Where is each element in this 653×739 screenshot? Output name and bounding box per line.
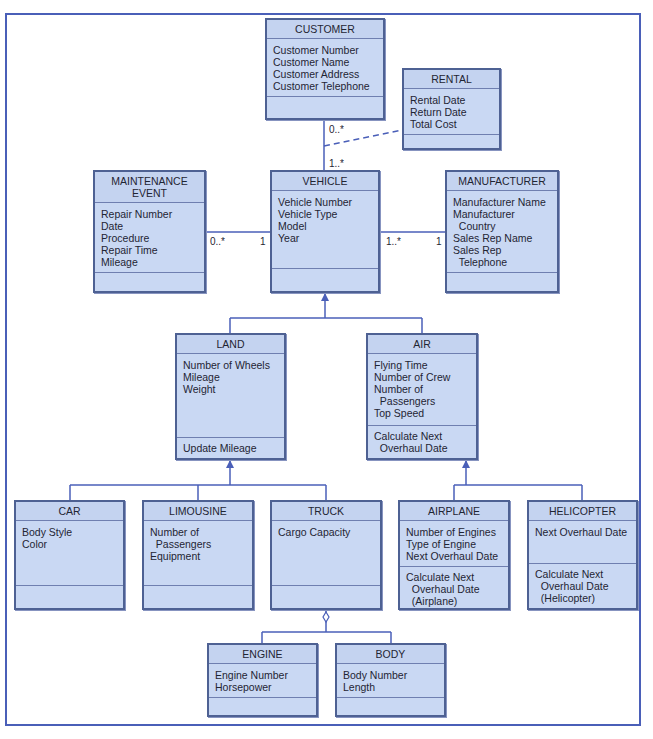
attribute: Number of Crew bbox=[374, 371, 470, 383]
attribute: Customer Number bbox=[273, 44, 377, 56]
attribute: Total Cost bbox=[410, 118, 493, 130]
operations-compartment bbox=[272, 269, 378, 291]
attributes-compartment: Number of WheelsMileageWeight bbox=[177, 354, 284, 438]
multiplicity-manufacturer-end: 1 bbox=[436, 236, 442, 247]
attribute: Vehicle Number bbox=[278, 196, 372, 208]
class-name: VEHICLE bbox=[272, 172, 378, 191]
class-name: MAINTENANCEEVENT bbox=[95, 172, 204, 203]
attribute: Return Date bbox=[410, 106, 493, 118]
operation: Update Mileage bbox=[183, 442, 278, 454]
attribute: Telephone bbox=[453, 256, 551, 268]
class-name: LAND bbox=[177, 335, 284, 354]
attribute: Number of bbox=[150, 526, 246, 538]
attribute: Customer Name bbox=[273, 56, 377, 68]
attribute: Cargo Capacity bbox=[278, 526, 374, 538]
attribute: Flying Time bbox=[374, 359, 470, 371]
operation: Calculate Next bbox=[406, 571, 502, 583]
attribute: Mileage bbox=[183, 371, 278, 383]
attributes-compartment: Number of EnginesType of EngineNext Over… bbox=[400, 521, 508, 567]
class-name: LIMOUSINE bbox=[144, 502, 252, 521]
attribute: Procedure bbox=[101, 232, 198, 244]
class-engine: ENGINEEngine NumberHorsepower bbox=[207, 643, 318, 717]
attribute: Number of bbox=[374, 383, 470, 395]
class-helicopter: HELICOPTERNext Overhaul DateCalculate Ne… bbox=[527, 500, 638, 610]
operations-compartment: Update Mileage bbox=[177, 438, 284, 458]
class-name: MANUFACTURER bbox=[447, 172, 557, 191]
attribute: Weight bbox=[183, 383, 278, 395]
operations-compartment: Calculate Next Overhaul Date (Helicopter… bbox=[529, 564, 636, 608]
attributes-compartment: Number of PassengersEquipment bbox=[144, 521, 252, 586]
attributes-compartment: Manufacturer NameManufacturer CountrySal… bbox=[447, 191, 557, 273]
attributes-compartment: Vehicle NumberVehicle TypeModelYear bbox=[272, 191, 378, 269]
class-manufacturer: MANUFACTURERManufacturer NameManufacture… bbox=[445, 170, 559, 293]
operation: Overhaul Date bbox=[535, 580, 630, 592]
attribute: Customer Telephone bbox=[273, 80, 377, 92]
class-land: LANDNumber of WheelsMileageWeightUpdate … bbox=[175, 333, 286, 460]
attribute: Passengers bbox=[374, 395, 470, 407]
attribute: Sales Rep bbox=[453, 244, 551, 256]
attributes-compartment: Body NumberLength bbox=[337, 664, 444, 698]
class-name: TRUCK bbox=[272, 502, 380, 521]
attribute: Type of Engine bbox=[406, 538, 502, 550]
multiplicity-vehicle-end: 1..* bbox=[329, 158, 344, 169]
attributes-compartment: Cargo Capacity bbox=[272, 521, 380, 586]
class-airplane: AIRPLANENumber of EnginesType of EngineN… bbox=[398, 500, 510, 610]
class-air: AIRFlying TimeNumber of CrewNumber of Pa… bbox=[366, 333, 478, 460]
class-vehicle: VEHICLEVehicle NumberVehicle TypeModelYe… bbox=[270, 170, 380, 293]
attribute: Date bbox=[101, 220, 198, 232]
attributes-compartment: Rental DateReturn DateTotal Cost bbox=[404, 89, 499, 135]
multiplicity-customer-end: 0..* bbox=[329, 124, 344, 135]
operations-compartment bbox=[144, 586, 252, 608]
class-car: CARBody StyleColor bbox=[14, 500, 125, 610]
attribute: Body Number bbox=[343, 669, 438, 681]
class-rental: RENTALRental DateReturn DateTotal Cost bbox=[402, 68, 501, 150]
operation: Overhaul Date bbox=[406, 583, 502, 595]
class-name: CAR bbox=[16, 502, 123, 521]
attribute: Mileage bbox=[101, 256, 198, 268]
attribute: Top Speed bbox=[374, 407, 470, 419]
attributes-compartment: Engine NumberHorsepower bbox=[209, 664, 316, 698]
class-name: CUSTOMER bbox=[267, 20, 383, 39]
operation: Calculate Next bbox=[535, 568, 630, 580]
class-name: AIRPLANE bbox=[400, 502, 508, 521]
attribute: Engine Number bbox=[215, 669, 310, 681]
class-maintenance-event: MAINTENANCEEVENTRepair NumberDateProcedu… bbox=[93, 170, 206, 293]
attribute: Vehicle Type bbox=[278, 208, 372, 220]
class-name: HELICOPTER bbox=[529, 502, 636, 521]
attributes-compartment: Next Overhaul Date bbox=[529, 521, 636, 564]
operations-compartment bbox=[447, 273, 557, 291]
operations-compartment bbox=[404, 135, 499, 148]
operation: Calculate Next bbox=[374, 430, 470, 442]
multiplicity-maintenance-end: 0..* bbox=[210, 236, 225, 247]
attribute: Passengers bbox=[150, 538, 246, 550]
multiplicity-vehicle-manuf-end: 1..* bbox=[386, 236, 401, 247]
attribute: Customer Address bbox=[273, 68, 377, 80]
attribute: Equipment bbox=[150, 550, 246, 562]
operations-compartment bbox=[95, 273, 204, 291]
attribute: Model bbox=[278, 220, 372, 232]
class-name: ENGINE bbox=[209, 645, 316, 664]
class-body: BODYBody NumberLength bbox=[335, 643, 446, 717]
attributes-compartment: Body StyleColor bbox=[16, 521, 123, 586]
class-name: RENTAL bbox=[404, 70, 499, 89]
class-name: BODY bbox=[337, 645, 444, 664]
attributes-compartment: Repair NumberDateProcedureRepair TimeMil… bbox=[95, 203, 204, 273]
attribute: Next Overhaul Date bbox=[406, 550, 502, 562]
attribute: Manufacturer bbox=[453, 208, 551, 220]
operations-compartment bbox=[337, 698, 444, 715]
attributes-compartment: Customer NumberCustomer NameCustomer Add… bbox=[267, 39, 383, 97]
class-customer: CUSTOMERCustomer NumberCustomer NameCust… bbox=[265, 18, 385, 120]
attribute: Length bbox=[343, 681, 438, 693]
class-limousine: LIMOUSINENumber of PassengersEquipment bbox=[142, 500, 254, 610]
operation: (Helicopter) bbox=[535, 592, 630, 604]
attribute: Repair Time bbox=[101, 244, 198, 256]
operation: (Airplane) bbox=[406, 595, 502, 607]
attribute: Horsepower bbox=[215, 681, 310, 693]
attribute: Body Style bbox=[22, 526, 117, 538]
class-name: AIR bbox=[368, 335, 476, 354]
class-truck: TRUCKCargo Capacity bbox=[270, 500, 382, 610]
attribute: Rental Date bbox=[410, 94, 493, 106]
attribute: Repair Number bbox=[101, 208, 198, 220]
attribute: Country bbox=[453, 220, 551, 232]
attribute: Manufacturer Name bbox=[453, 196, 551, 208]
